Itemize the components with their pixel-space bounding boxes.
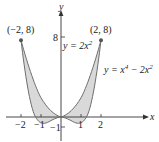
point-label-right: (2, 8) (90, 24, 112, 36)
point-dot-left (19, 38, 23, 42)
y-tick-label-neg1: −1 (50, 122, 61, 133)
point-dot-right (99, 38, 103, 42)
x-tick-label-neg2: −2 (15, 119, 26, 130)
x-tick-label-2: 2 (98, 119, 103, 130)
curve-label-lower: y = x4 − 2x2 (103, 63, 153, 75)
x-tick-label-neg1: −1 (34, 119, 45, 130)
y-tick-label-8: 8 (53, 32, 58, 43)
area-between-curves-figure: (−2, 8) (2, 8) y x 8 −1 −2 −1 1 2 y = 2x… (0, 0, 159, 142)
y-axis-label: y (58, 1, 64, 12)
curve-label-upper: y = 2x2 (62, 39, 93, 51)
x-axis-arrow-icon (143, 115, 149, 120)
x-tick-label-1: 1 (78, 119, 83, 130)
x-axis-label: x (149, 111, 155, 122)
point-label-left: (−2, 8) (7, 24, 34, 36)
